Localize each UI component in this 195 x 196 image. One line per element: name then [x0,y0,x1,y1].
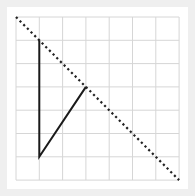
grid-canvas [0,0,195,196]
